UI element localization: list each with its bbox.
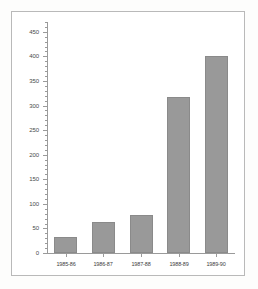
y-axis-tick-minor [45,86,47,87]
y-axis-tick-minor [45,96,47,97]
y-axis-tick-label: 0 [36,250,39,256]
y-axis-tick-major [43,179,47,180]
y-axis-tick-minor [45,135,47,136]
x-axis-tick-label: 1988-89 [161,261,197,267]
y-axis-tick-label: 450 [29,29,39,35]
y-axis-tick-major [43,253,47,254]
y-axis-tick-label: 350 [29,78,39,84]
x-axis-tick [141,254,142,257]
x-axis-tick [103,254,104,257]
bar[interactable] [92,222,115,253]
y-axis-tick-minor [45,189,47,190]
y-axis-tick-minor [45,194,47,195]
x-axis-tick [216,254,217,257]
y-axis-tick-minor [45,243,47,244]
y-axis-tick-minor [45,224,47,225]
bar[interactable] [167,97,190,253]
y-axis-tick-minor [45,150,47,151]
y-axis-tick-major [43,130,47,131]
y-axis-tick-minor [45,120,47,121]
y-axis-tick-minor [45,165,47,166]
y-axis-tick-minor [45,145,47,146]
y-axis-tick-label: 250 [29,127,39,133]
y-axis-tick-major [43,106,47,107]
bar[interactable] [54,237,77,253]
y-axis-tick-minor [45,110,47,111]
y-axis-tick-label: 300 [29,103,39,109]
y-axis-tick-minor [45,199,47,200]
y-axis-tick-minor [45,115,47,116]
y-axis-tick-minor [45,174,47,175]
x-axis-tick-label: 1985-86 [48,261,84,267]
y-axis-tick-minor [45,76,47,77]
y-axis-tick-label: 400 [29,53,39,59]
y-axis-tick-minor [45,184,47,185]
y-axis-tick-minor [45,22,47,23]
y-axis-line [47,22,48,254]
y-axis-tick-major [43,204,47,205]
bar[interactable] [130,215,153,253]
y-axis-tick-minor [45,238,47,239]
y-axis-tick-minor [45,248,47,249]
y-axis-tick-minor [45,209,47,210]
x-axis-tick-label: 1987-88 [123,261,159,267]
y-axis-tick-minor [45,140,47,141]
x-axis-tick-label: 1986-87 [85,261,121,267]
y-axis-tick-label: 100 [29,201,39,207]
y-axis-tick-minor [45,37,47,38]
y-axis-tick-minor [45,61,47,62]
y-axis-tick-major [43,81,47,82]
y-axis-tick-major [43,228,47,229]
y-axis-tick-minor [45,101,47,102]
y-axis-tick-minor [45,42,47,43]
y-axis-tick-minor [45,66,47,67]
y-axis-tick-major [43,56,47,57]
x-axis-tick-label: 1989-90 [198,261,234,267]
bar[interactable] [205,56,228,253]
y-axis-tick-label: 50 [33,225,39,231]
y-axis-tick-label: 200 [29,152,39,158]
x-axis-tick [66,254,67,257]
y-axis-tick-minor [45,71,47,72]
y-axis-tick-minor [45,27,47,28]
y-axis-tick-minor [45,214,47,215]
y-axis-tick-minor [45,91,47,92]
y-axis-tick-major [43,32,47,33]
y-axis-tick-major [43,155,47,156]
y-axis-tick-minor [45,233,47,234]
y-axis-tick-minor [45,51,47,52]
y-axis-tick-minor [45,219,47,220]
figure: 0501001502002503003504004501985-861986-8… [0,0,258,289]
y-axis-tick-minor [45,125,47,126]
y-axis-tick-minor [45,169,47,170]
y-axis-tick-minor [45,47,47,48]
plot-area: 0501001502002503003504004501985-861986-8… [0,0,258,289]
x-axis-tick [179,254,180,257]
y-axis-tick-minor [45,160,47,161]
y-axis-tick-label: 150 [29,176,39,182]
